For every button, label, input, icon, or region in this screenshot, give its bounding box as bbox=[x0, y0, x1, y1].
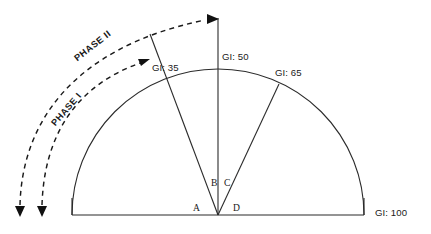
gi-phase-diagram: GI: 35 GI: 50 GI: 65 GI: 100 A B C D PHA… bbox=[0, 0, 431, 234]
point-b-label: B bbox=[211, 178, 218, 188]
phase-2-arrowhead-bottom bbox=[15, 206, 25, 217]
point-c-label: C bbox=[224, 178, 231, 188]
radial-line-gi-65 bbox=[218, 84, 279, 215]
point-a-label: A bbox=[193, 203, 200, 213]
gi-65-label: GI: 65 bbox=[275, 68, 302, 78]
gi-35-label: GI: 35 bbox=[152, 63, 179, 73]
phase-2-arrowhead-top bbox=[207, 14, 219, 24]
phase-1-dashed-arc bbox=[42, 62, 143, 205]
gi-50-label: GI: 50 bbox=[222, 52, 249, 62]
phase-1-arrowhead-top bbox=[138, 59, 150, 66]
point-d-label: D bbox=[233, 203, 240, 213]
phase-2-dashed-arc bbox=[20, 20, 205, 205]
phase-1-arrowhead-bottom bbox=[37, 206, 47, 217]
gi-100-label: GI: 100 bbox=[375, 208, 407, 218]
